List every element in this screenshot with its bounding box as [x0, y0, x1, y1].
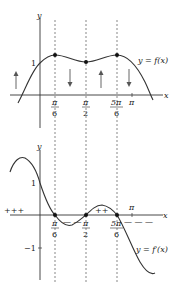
sign-minus-1: — — — [63, 217, 82, 226]
zero-pi6 — [53, 213, 57, 217]
sign-plus-2: ++ — [95, 206, 108, 215]
tick-pi: π — [128, 98, 135, 107]
critical-point-pi6 — [53, 53, 57, 57]
bottom-neg-one-label: −1 — [24, 244, 36, 253]
curve-fprime — [10, 158, 155, 274]
bottom-plot: y x 1 −1 +++ — — ++ — — — π 6 π 2 5π 6 π… — [4, 142, 168, 280]
arrow-up-icon — [14, 71, 19, 89]
arrow-down-icon — [127, 69, 132, 87]
tick-pi: π — [128, 203, 135, 212]
critical-point-pi2 — [84, 60, 88, 64]
tick-pi2-den: 2 — [83, 109, 88, 118]
sign-plus-1: +++ — [4, 206, 24, 215]
bottom-one-label: 1 — [31, 179, 36, 188]
tick-5pi6-num: 5π — [111, 98, 122, 107]
arrow-up-icon — [99, 70, 104, 88]
tick-pi6-den: 6 — [52, 230, 57, 239]
tick-pi6-den: 6 — [52, 109, 57, 118]
tick-pi6-num: π — [51, 98, 58, 107]
zero-5pi6 — [115, 213, 119, 217]
top-plot: y x 1 y = f(x) π 6 π 2 5π 6 π — [10, 11, 169, 128]
top-one-label: 1 — [31, 59, 36, 68]
critical-point-5pi6 — [115, 53, 119, 57]
top-y-label: y — [36, 11, 42, 20]
bottom-curve-label: y = f′(x) — [135, 245, 168, 254]
zero-pi2 — [84, 213, 88, 217]
tick-5pi6-den: 6 — [114, 109, 119, 118]
tick-5pi6-num: 5π — [111, 219, 122, 228]
arrow-down-icon — [68, 69, 73, 87]
tick-pi2-den: 2 — [83, 230, 88, 239]
tick-5pi6-den: 6 — [114, 230, 119, 239]
bottom-y-label: y — [36, 142, 42, 151]
top-curve-label: y = f(x) — [137, 56, 168, 65]
tick-pi2-num: π — [82, 98, 89, 107]
sign-minus-2: — — — — [124, 217, 153, 226]
bottom-x-label: x — [163, 211, 168, 220]
figure: y x 1 y = f(x) π 6 π 2 5π 6 π — [0, 0, 173, 285]
tick-pi6-num: π — [51, 219, 58, 228]
top-x-label: x — [164, 91, 169, 100]
tick-pi2-num: π — [82, 219, 89, 228]
